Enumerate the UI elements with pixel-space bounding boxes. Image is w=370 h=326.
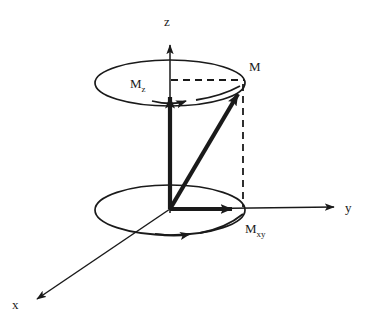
y-axis-label: y	[345, 200, 352, 215]
lower-precession-tail	[200, 214, 243, 233]
mxy-vector-label: Mxy	[245, 221, 266, 239]
mz-label-subscript: z	[142, 84, 146, 94]
magnetization-diagram: z y x M Mz Mxy	[0, 0, 370, 326]
vectors-group	[170, 94, 238, 209]
x-axis-label: x	[12, 297, 19, 312]
z-axis-label: z	[164, 14, 170, 29]
mz-vector-label: Mz	[130, 76, 146, 94]
m-vector	[170, 94, 238, 209]
mxy-label-base: M	[245, 221, 257, 236]
labels-group: z y x M Mz Mxy	[12, 14, 352, 312]
mz-label-base: M	[130, 76, 142, 91]
axes-group	[37, 45, 334, 299]
diagram-canvas: z y x M Mz Mxy	[0, 0, 370, 326]
m-vector-label: M	[249, 59, 261, 74]
mxy-label-subscript: xy	[257, 229, 267, 239]
